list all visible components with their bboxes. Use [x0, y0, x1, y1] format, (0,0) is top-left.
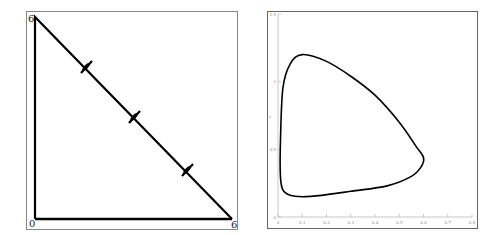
y-tick-label: 1 [273, 79, 276, 84]
x-tick-label: 0.4 [372, 220, 379, 225]
left-panel-simplex-diagram: 6 0 6 [0, 0, 250, 235]
x-tick-label: 0.6 [420, 220, 427, 225]
y-tick-label: 0.5 [270, 147, 277, 152]
x-tick-label: 0.2 [323, 220, 330, 225]
x-tick-label: 0.1 [299, 220, 305, 225]
x-tick-label: 0 [277, 220, 280, 225]
x-tick-label: 0.5 [396, 220, 403, 225]
y-tick-label: 1.5 [270, 12, 277, 17]
x-tick-label: 0.3 [348, 220, 355, 225]
right-panel-phase-plot: 00.10.20.30.40.50.60.70.8 00.511.5 y [255, 0, 497, 235]
label-x-max: 6 [231, 219, 237, 230]
phase-plot-svg: 00.10.20.30.40.50.60.70.8 00.511.5 y [255, 0, 497, 235]
label-y-max: 6 [28, 13, 34, 24]
x-tick-label: 0.8 [469, 220, 476, 225]
simplex-svg: 6 0 6 [0, 0, 250, 235]
label-origin: 0 [29, 218, 35, 229]
x-tick-label: 0.7 [445, 220, 452, 225]
